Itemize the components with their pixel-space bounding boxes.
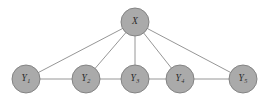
graph-node-y4[interactable]: Y4	[166, 65, 194, 93]
graph-edge-x-y4	[144, 33, 172, 68]
node-label-subscript: 3	[135, 77, 139, 84]
graph-canvas: XY1Y2Y3Y4Y5	[0, 0, 271, 100]
node-layer: XY1Y2Y3Y4Y5	[12, 8, 257, 93]
node-label-subscript: 1	[27, 77, 30, 84]
graph-edge-x-y2	[95, 33, 126, 69]
node-label-base: X	[131, 16, 139, 26]
graph-node-x[interactable]: X	[121, 8, 149, 36]
node-label-subscript: 5	[244, 77, 247, 84]
graph-edge-x-y5	[147, 29, 230, 73]
graph-node-y3[interactable]: Y3	[121, 65, 149, 93]
graph-node-y5[interactable]: Y5	[229, 65, 257, 93]
node-label-subscript: 2	[87, 77, 90, 84]
graph-node-y2[interactable]: Y2	[72, 65, 100, 93]
graph-diagram: XY1Y2Y3Y4Y5	[0, 0, 271, 100]
graph-node-y1[interactable]: Y1	[12, 65, 40, 93]
node-label-subscript: 4	[181, 77, 184, 84]
node-label-x: X	[131, 16, 139, 26]
